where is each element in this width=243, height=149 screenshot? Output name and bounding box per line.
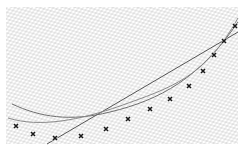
chart-container bbox=[0, 0, 243, 149]
x-marker-icon bbox=[222, 39, 227, 44]
x-marker-icon bbox=[212, 53, 217, 58]
grid-background bbox=[6, 7, 238, 144]
x-marker-icon bbox=[104, 127, 109, 132]
scatter-plot bbox=[0, 0, 243, 149]
x-marker-icon bbox=[233, 24, 238, 29]
x-marker-icon bbox=[31, 132, 36, 137]
x-marker-icon bbox=[53, 136, 58, 141]
x-marker-icon bbox=[79, 134, 84, 139]
x-marker-icon bbox=[187, 84, 192, 89]
x-marker-icon bbox=[126, 117, 131, 122]
x-marker-icon bbox=[168, 97, 173, 102]
x-marker-icon bbox=[201, 69, 206, 74]
x-marker-icon bbox=[148, 107, 153, 112]
x-marker-icon bbox=[14, 124, 19, 129]
